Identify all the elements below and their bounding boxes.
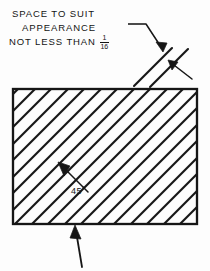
note-line-3-text: NOT LESS THAN [9,35,96,49]
fraction-denominator: 16 [100,43,108,50]
part-outline-rectangle [13,89,197,224]
fraction-one-sixteenth: 1 16 [100,34,109,50]
note-leader-line [128,24,167,52]
note-line-2: APPEARANCE [9,21,133,35]
angle-value: 45 [71,186,82,196]
degree-symbol: ° [82,186,85,193]
bottom-pointer-arrow [70,225,82,267]
drawing-sheet: SPACE TO SUIT APPEARANCE NOT LESS THAN 1… [0,0,210,271]
note-line-3: NOT LESS THAN 1 16 [9,34,133,50]
hatch-spacing-note: SPACE TO SUIT APPEARANCE NOT LESS THAN 1… [9,7,133,50]
angle-callout-label: 45° [71,186,85,196]
hatch-fill [0,89,210,224]
fraction-numerator: 1 [102,34,106,41]
spacing-leader-line [168,60,192,79]
spacing-sample-hatch-lines [134,48,188,87]
note-line-1: SPACE TO SUIT [9,7,133,21]
